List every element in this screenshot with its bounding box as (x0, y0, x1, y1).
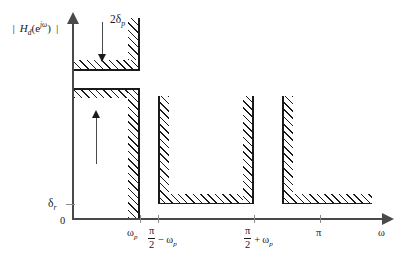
y-axis-label-bar-left: | (12, 22, 15, 34)
x-axis-label: ω (378, 228, 385, 239)
stopband-2-left-hatch (282, 96, 293, 204)
stopband-2-left-edge (282, 96, 284, 204)
y-axis (72, 22, 74, 220)
ytick-delta-r (66, 204, 75, 205)
figure-canvas: | Hd(ejω) | 2δp δr 0 ωp π 2 −ωp π 2 +ωp … (0, 0, 404, 267)
xtick-label-half-pi-plus-wp: π 2 +ωp (243, 226, 273, 250)
passband-upper-bottom-edge (74, 69, 140, 71)
y-axis-label-open: (e (31, 22, 40, 34)
passband-lower-top-edge (74, 88, 140, 90)
fraction-numerator-b: π (244, 226, 251, 237)
passband-tolerance-subscript: p (121, 19, 125, 28)
stopband-2-bottom-edge (282, 203, 372, 205)
stopband-1-right-edge (252, 96, 254, 204)
fraction-denominator-b: 2 (244, 240, 251, 251)
fraction-pi-over-two-a: π 2 (148, 226, 155, 250)
stopband-1-bottom-edge (158, 203, 254, 205)
fraction-numerator-a: π (148, 226, 155, 237)
stopband-1-left-edge (158, 96, 160, 204)
xtick-pi (320, 215, 321, 223)
stopband-level-subscript: r (53, 203, 56, 212)
xtick-wp (140, 215, 141, 223)
passband-upper-right-edge (138, 18, 140, 70)
passband-tolerance-arrow-shaft (102, 22, 103, 56)
y-axis-label-close: ) (47, 22, 51, 34)
lower-band-arrow-shaft (96, 118, 97, 164)
xtick-label-half-pi-minus-wp: π 2 −ωp (147, 226, 177, 250)
lower-band-arrow-head-up (92, 110, 100, 118)
xtick-term-omega-a-subscript: p (173, 240, 177, 248)
xtick-label-wp-text: ω (127, 227, 134, 238)
fraction-denominator-a: 2 (148, 240, 155, 251)
xtick-term-omega-b-subscript: p (269, 240, 273, 248)
xtick-label-wp-subscript: p (134, 233, 138, 241)
passband-lower-right-edge (138, 88, 140, 218)
xtick-operator-plus: + (254, 234, 260, 245)
y-axis-label-bar-right: | (56, 22, 59, 34)
y-axis-arrowhead (67, 12, 79, 24)
x-axis (72, 218, 384, 220)
stopband-level-label: δr (48, 198, 56, 212)
y-axis-label-h: H (20, 22, 28, 34)
x-axis-arrowhead (382, 213, 394, 225)
xtick-operator-minus: − (158, 234, 164, 245)
xtick-half-pi-plus-wp (254, 215, 255, 223)
origin-label: 0 (60, 216, 65, 227)
xtick-half-pi-minus-wp (158, 215, 159, 223)
y-axis-label: | Hd(ejω) | (12, 22, 59, 36)
passband-tolerance-label: 2δp (110, 14, 125, 28)
passband-tolerance-text: 2δ (110, 13, 121, 25)
fraction-pi-over-two-b: π 2 (244, 226, 251, 250)
xtick-label-pi: π (316, 228, 321, 239)
stopband-1-left-hatch (158, 96, 169, 204)
xtick-label-wp: ωp (127, 228, 137, 241)
passband-tolerance-arrow-head-down (98, 54, 106, 62)
